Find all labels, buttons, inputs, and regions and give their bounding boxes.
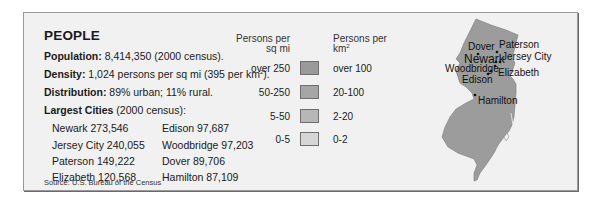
panel-title: PEOPLE <box>44 28 100 43</box>
population-fact: Population: 8,414,350 (2000 census). <box>44 50 224 62</box>
legend-sqmi-value: 0-5 <box>240 134 290 145</box>
city-item: Jersey City 240,055 <box>52 139 145 151</box>
legend-swatch-0-5 <box>300 132 319 146</box>
map-label-jersey-city: Jersey City <box>502 51 551 62</box>
source-note: Source: U.S. Bureau of the Census <box>44 178 161 187</box>
distribution-fact: Distribution: 89% urban; 11% rural. <box>44 86 213 98</box>
legend-header-km2: Persons per km2 <box>333 34 387 54</box>
largest-cities-heading: Largest Cities (2000 census): <box>44 104 186 116</box>
legend-km2-value: 20-100 <box>333 87 364 98</box>
map-label-paterson: Paterson <box>499 39 539 50</box>
map-label-woodbridge: Woodbridge <box>445 63 499 74</box>
map-label-edison: Edison <box>462 74 493 85</box>
legend-km2-value: over 100 <box>333 63 372 74</box>
legend-swatch-50-250 <box>300 85 319 99</box>
density-fact: Density: 1,024 persons per sq mi (395 pe… <box>44 68 270 80</box>
city-item: Edison 97,687 <box>162 122 229 134</box>
new-jersey-map: Dover Paterson Newark Jersey City Woodbr… <box>436 13 576 192</box>
city-item: Hamilton 87,109 <box>162 171 238 183</box>
legend-sqmi-value: over 250 <box>240 63 290 74</box>
city-dot-hamilton <box>474 94 477 97</box>
legend-header-sqmi: Persons per sq mi <box>230 34 290 54</box>
legend-swatch-5-50 <box>300 109 319 123</box>
legend-sqmi-value: 5-50 <box>240 111 290 122</box>
legend-km2-value: 0-2 <box>333 134 347 145</box>
map-label-hamilton: Hamilton <box>478 95 517 106</box>
city-item: Paterson 149,222 <box>52 155 135 167</box>
city-item: Dover 89,706 <box>162 155 225 167</box>
legend-km2-value: 2-20 <box>333 111 353 122</box>
map-label-elizabeth: Elizabeth <box>498 67 539 78</box>
legend-swatch-over-250 <box>300 61 319 75</box>
map-label-dover: Dover <box>468 41 495 52</box>
people-panel: PEOPLE Population: 8,414,350 (2000 censu… <box>23 12 578 191</box>
city-item: Newark 273,546 <box>52 122 128 134</box>
legend-sqmi-value: 50-250 <box>240 87 290 98</box>
